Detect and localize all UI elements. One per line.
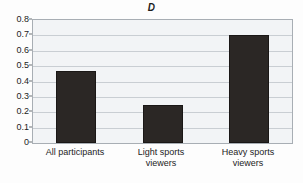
y-axis-tick-label: 0.7 xyxy=(0,30,29,39)
bar xyxy=(56,71,96,143)
y-axis-tick-label: 0.6 xyxy=(0,46,29,55)
x-axis-tick-label-line: All participants xyxy=(32,147,118,158)
x-axis-tick-label-line: viewers xyxy=(205,158,291,169)
y-axis-tick-label: 0.4 xyxy=(0,77,29,86)
x-axis-tick-label-line: viewers xyxy=(118,158,204,169)
bar xyxy=(229,35,269,143)
y-axis-tick-label: 0.5 xyxy=(0,61,29,70)
y-axis-tick-label: 0.3 xyxy=(0,92,29,101)
plot-inner xyxy=(33,20,292,143)
x-axis-tick-label: Light sportsviewers xyxy=(118,147,204,169)
x-axis: All participantsLight sportsviewersHeavy… xyxy=(32,147,293,181)
y-axis-tick-label: 0 xyxy=(0,138,29,147)
y-axis-tick-label: 0.2 xyxy=(0,107,29,116)
chart-title: D xyxy=(0,2,303,13)
y-axis-tick-label: 0.8 xyxy=(0,15,29,24)
x-axis-tick-label-line: Light sports xyxy=(118,147,204,158)
y-axis-tick-label: 0.1 xyxy=(0,123,29,132)
x-axis-tick-label: Heavy sportsviewers xyxy=(205,147,291,169)
x-axis-tick-label-line: Heavy sports xyxy=(205,147,291,158)
y-axis: 0.80.70.60.50.40.30.20.10 xyxy=(0,19,29,144)
bar-chart: D 0.80.70.60.50.40.30.20.10 All particip… xyxy=(0,0,303,183)
x-axis-tick-label: All participants xyxy=(32,147,118,158)
plot-area xyxy=(32,19,293,144)
bar xyxy=(143,105,183,143)
